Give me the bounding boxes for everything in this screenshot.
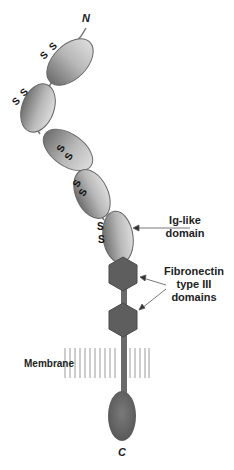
ig-like-domain-label: Ig-like domain: [160, 214, 210, 240]
fibronectin-label: Fibronectin type III domains: [160, 265, 228, 304]
fibronectin-line-2: type III: [160, 278, 228, 291]
fibronectin-line-3: domains: [160, 291, 228, 304]
svg-text:S: S: [38, 49, 51, 62]
membrane-label: Membrane: [24, 357, 74, 370]
c-terminal-label: C: [118, 446, 126, 458]
membrane-lines: [65, 348, 149, 378]
fibronectin-domain-1: [109, 257, 137, 291]
svg-text:S: S: [10, 95, 23, 108]
fibronectin-domain-2: [109, 303, 137, 337]
transmembrane-stem: [121, 285, 127, 395]
ig-like-line-2: domain: [160, 227, 210, 240]
fibronectin-line-1: Fibronectin: [160, 265, 228, 278]
n-terminal-label: N: [82, 12, 90, 24]
c-terminal-domain: [108, 391, 136, 441]
ig-like-line-1: Ig-like: [160, 214, 210, 227]
ig-like-domain-2: S S: [10, 79, 62, 137]
svg-text:S: S: [98, 234, 105, 245]
svg-text:S: S: [97, 221, 104, 232]
